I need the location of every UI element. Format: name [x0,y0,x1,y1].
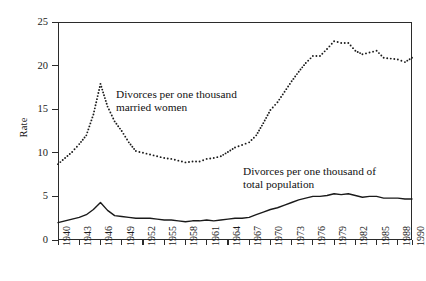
x-tick-mark [58,240,59,245]
x-tick-mark [355,240,356,245]
x-tick-label: 1961 [211,226,221,246]
y-tick-mark [52,109,58,110]
x-tick-mark [164,240,165,245]
y-tick-mark [52,22,58,23]
x-tick-label: 1990 [416,226,426,246]
x-tick-label: 1976 [317,226,327,246]
y-tick-mark [52,196,58,197]
annotation-married-women: Divorces per one thousand married women [116,88,237,113]
y-tick-label: 0 [12,235,48,246]
y-tick-label: 15 [12,104,48,115]
y-tick-mark [52,152,58,153]
x-tick-mark [412,240,413,245]
x-tick-label: 1952 [147,226,157,246]
x-tick-mark [100,240,101,245]
y-tick-label: 25 [12,17,48,28]
x-tick-mark [376,240,377,245]
x-tick-mark [270,240,271,245]
annotation-total-population: Divorces per one thousand of total popul… [243,165,376,190]
x-tick-mark [121,240,122,245]
x-tick-label: 1949 [126,226,136,246]
x-tick-mark [312,240,313,245]
x-tick-label: 1955 [168,226,178,246]
x-tick-label: 1946 [104,226,114,246]
x-tick-mark [142,240,143,245]
x-tick-mark [334,240,335,245]
x-tick-label: 1973 [296,226,306,246]
y-tick-mark [52,65,58,66]
x-tick-mark [185,240,186,245]
y-tick-label: 20 [12,61,48,72]
x-tick-label: 1982 [359,226,369,246]
x-tick-mark [397,240,398,245]
x-tick-mark [227,240,228,245]
x-tick-label: 1964 [232,226,242,246]
x-tick-label: 1979 [338,226,348,246]
x-tick-mark [249,240,250,245]
y-tick-label: 10 [12,148,48,159]
y-tick-label: 5 [12,191,48,202]
x-tick-label: 1967 [253,226,263,246]
x-tick-mark [291,240,292,245]
x-tick-label: 1940 [62,226,72,246]
x-tick-label: 1988 [402,226,412,246]
x-tick-mark [206,240,207,245]
x-tick-label: 1970 [274,226,284,246]
plot-frame [58,22,412,240]
x-tick-label: 1958 [189,226,199,246]
x-tick-mark [79,240,80,245]
x-tick-label: 1943 [83,226,93,246]
x-tick-label: 1985 [381,226,391,246]
